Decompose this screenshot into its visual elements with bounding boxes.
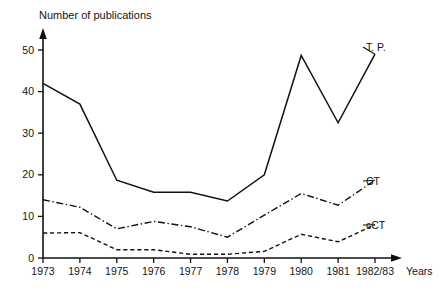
series-label-ct: CT bbox=[366, 175, 381, 187]
series-label-tp: T. P. bbox=[366, 41, 386, 53]
x-tick-label: 1976 bbox=[142, 265, 166, 277]
x-tick-label: 1973 bbox=[31, 265, 55, 277]
y-tick-label: 20 bbox=[22, 168, 34, 180]
x-tick-label: 1980 bbox=[290, 265, 314, 277]
publications-line-chart: Number of publications 01020304050 19731… bbox=[0, 0, 444, 301]
series-line-cct bbox=[43, 225, 375, 255]
series-group bbox=[43, 54, 375, 254]
x-tick-label: 1978 bbox=[216, 265, 240, 277]
series-label-cct: cCT bbox=[366, 219, 386, 231]
y-axis: 01020304050 bbox=[22, 28, 46, 264]
x-tick-label: 1979 bbox=[253, 265, 277, 277]
page-title: Number of publications bbox=[39, 9, 152, 21]
x-axis-title: Years bbox=[406, 265, 432, 277]
x-axis: 1973197419751976197719781979198019811982… bbox=[31, 254, 432, 277]
x-tick-label: 1977 bbox=[179, 265, 203, 277]
y-tick-label: 40 bbox=[22, 85, 34, 97]
x-tick-label: 1982/83 bbox=[356, 265, 394, 277]
x-tick-label: 1981 bbox=[326, 265, 350, 277]
x-tick-label: 1974 bbox=[68, 265, 92, 277]
y-tick-label: 0 bbox=[28, 252, 34, 264]
y-tick-group: 01020304050 bbox=[22, 44, 43, 264]
series-line-ct bbox=[43, 180, 375, 237]
series-line-tp bbox=[43, 54, 375, 201]
y-axis-arrow-icon bbox=[39, 28, 47, 39]
series-labels: T. P. CT cCT bbox=[366, 41, 386, 231]
x-tick-label: 1975 bbox=[105, 265, 129, 277]
y-tick-label: 10 bbox=[22, 210, 34, 222]
x-tick-group: 1973197419751976197719781979198019811982… bbox=[31, 258, 394, 277]
x-axis-arrow-icon bbox=[391, 254, 402, 262]
y-tick-label: 30 bbox=[22, 127, 34, 139]
chart-canvas: Number of publications 01020304050 19731… bbox=[0, 0, 444, 301]
y-tick-label: 50 bbox=[22, 44, 34, 56]
